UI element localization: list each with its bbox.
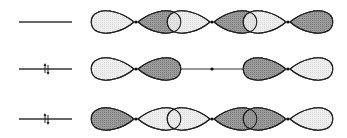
orbital-row-1 [91,11,333,33]
orbital-lobe-dark [243,58,286,80]
atom-dot [286,117,289,120]
orbital-lobe-light [290,108,333,130]
mo-diagram [0,0,347,138]
energy-level-3 [19,113,72,125]
atom-dot [210,117,213,120]
orbital-lobe-light [167,11,210,33]
atom-dot [210,67,213,70]
orbital-lobe-light [91,11,134,33]
orbital-lobes [91,11,333,130]
energy-levels [19,22,72,125]
orbital-lobe-light [290,58,333,80]
orbital-lobe-light [91,58,134,80]
atom-dot [134,117,137,120]
atom-dot [134,20,137,23]
orbital-lobe-dark [243,108,286,130]
orbital-lobe-dark [138,58,181,80]
atom-dot [286,67,289,70]
orbital-lobe-light [243,11,286,33]
orbital-lobe-dark [290,11,333,33]
orbital-row-2 [91,58,333,80]
orbital-lobe-light [167,108,210,130]
atom-dot [210,20,213,23]
energy-level-2 [19,63,72,75]
atom-dot [286,20,289,23]
orbital-row-3 [91,108,333,130]
atom-dot [134,67,137,70]
orbital-lobe-dark [91,108,134,130]
